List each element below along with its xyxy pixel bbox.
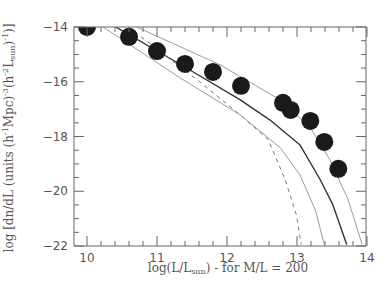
data-point xyxy=(301,112,319,130)
x-tick-label: 10 xyxy=(79,251,94,265)
x-axis-title: log(L/Lsun) - for M/L = 200 xyxy=(148,261,308,276)
luminosity-function-chart: 1011121314 −14−16−18−20−22 log(L/Lsun) -… xyxy=(0,0,391,289)
data-point xyxy=(282,101,300,119)
data-point xyxy=(315,133,333,151)
data-point xyxy=(232,77,250,95)
main-model-line xyxy=(116,27,347,244)
data-point xyxy=(176,55,194,73)
y-tick-labels: −14−16−18−20−22 xyxy=(43,20,68,253)
y-tick-label: −18 xyxy=(43,130,68,144)
lower-model-line xyxy=(103,27,324,244)
x-tick-label: 14 xyxy=(359,251,374,265)
y-tick-label: −22 xyxy=(43,239,68,253)
y-tick-label: −20 xyxy=(43,184,68,198)
data-point xyxy=(329,160,347,178)
y-axis-title: log [dn/dL (units (h-1Mpc)-3(h-2Lsun)-1)… xyxy=(1,24,17,253)
data-point xyxy=(148,42,166,60)
y-tick-label: −16 xyxy=(43,75,68,89)
data-point xyxy=(204,63,222,81)
y-tick-label: −14 xyxy=(43,20,68,34)
